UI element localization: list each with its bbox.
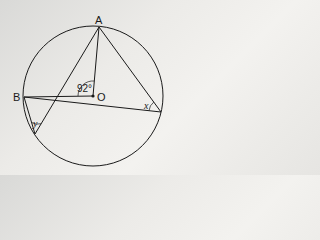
angle-label-y: y: [32, 118, 38, 129]
segment-BO: [24, 96, 93, 97]
center-point: [91, 94, 94, 97]
segment-AO: [93, 27, 99, 96]
angle-label-92: 92°: [77, 83, 92, 94]
circle-theorem-diagram: A B O 92° x y: [0, 0, 174, 175]
segment-AC: [99, 27, 161, 112]
angle-arc-x: [149, 102, 154, 111]
angle-label-x: x: [143, 100, 149, 111]
label-O: O: [97, 91, 106, 103]
segment-BC: [24, 97, 161, 112]
segment-AD: [35, 27, 99, 134]
label-B: B: [13, 91, 20, 103]
label-A: A: [95, 14, 103, 26]
